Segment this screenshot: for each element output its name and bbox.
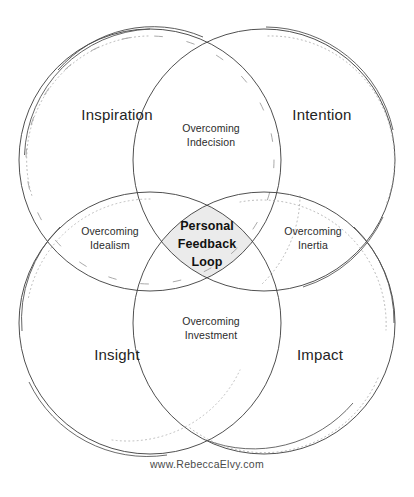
venn-circles-graphic	[0, 0, 414, 497]
venn-diagram-canvas: Inspiration Intention Insight Impact Ove…	[0, 0, 414, 497]
center-shaded-region	[0, 0, 414, 497]
